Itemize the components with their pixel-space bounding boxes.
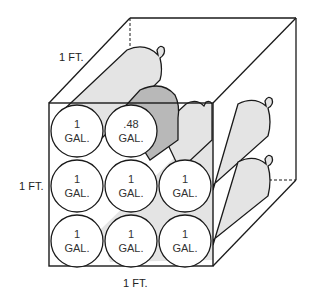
svg-text:GAL.: GAL. [64, 187, 89, 199]
jug-face: 1 GAL. [105, 160, 157, 212]
svg-text:1: 1 [74, 118, 80, 130]
svg-text:1: 1 [182, 228, 188, 240]
svg-text:GAL.: GAL. [64, 132, 89, 144]
svg-text:GAL.: GAL. [118, 132, 143, 144]
jug-face-partial: .48 GAL. [105, 105, 157, 157]
jug-face: 1 GAL. [159, 160, 211, 212]
svg-text:.48: .48 [123, 118, 138, 130]
svg-text:GAL.: GAL. [118, 242, 143, 254]
jug-face: 1 GAL. [51, 105, 103, 157]
svg-text:1: 1 [128, 228, 134, 240]
box-diagram: 1 GAL. .48 GAL. 1 GAL. 1 GAL. 1 GAL. 1 G… [0, 0, 316, 302]
jug-face: 1 GAL. [51, 160, 103, 212]
svg-text:1: 1 [182, 173, 188, 185]
jug-face: 1 GAL. [105, 215, 157, 267]
depth-label: 1 FT. [59, 51, 83, 63]
svg-text:GAL.: GAL. [172, 242, 197, 254]
svg-text:1: 1 [74, 228, 80, 240]
svg-text:GAL.: GAL. [118, 187, 143, 199]
jug-face: 1 GAL. [159, 215, 211, 267]
svg-text:1: 1 [74, 173, 80, 185]
width-label: 1 FT. [123, 277, 147, 289]
jug-face: 1 GAL. [51, 215, 103, 267]
height-label: 1 FT. [19, 180, 43, 192]
svg-text:GAL.: GAL. [172, 187, 197, 199]
svg-text:1: 1 [128, 173, 134, 185]
svg-text:GAL.: GAL. [64, 242, 89, 254]
